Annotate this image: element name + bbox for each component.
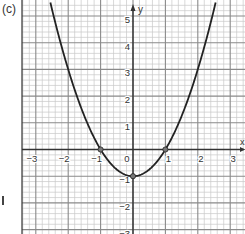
- x-tick-label: 2: [198, 153, 203, 164]
- y-tick-label: −2: [119, 201, 130, 212]
- y-tick-label: 5: [125, 14, 130, 25]
- marked-point: [98, 147, 103, 152]
- y-tick-label: 1: [125, 121, 130, 132]
- x-axis-label: x: [240, 137, 245, 147]
- x-tick-label: 3: [231, 153, 236, 164]
- parabola-chart: yx −3−2−1012354321−1−2−3: [0, 0, 245, 234]
- x-tick-label: −2: [59, 153, 70, 164]
- y-tick-label: 4: [125, 41, 130, 52]
- y-tick-label: 3: [125, 67, 130, 78]
- y-tick-label: −3: [119, 228, 130, 234]
- marked-point: [163, 147, 168, 152]
- y-axis-label: y: [138, 4, 143, 15]
- marked-point: [130, 174, 135, 179]
- x-axis-arrow-icon: [240, 147, 245, 152]
- x-tick-label: 0: [124, 153, 129, 164]
- x-tick-label: 1: [166, 153, 171, 164]
- x-tick-label: −3: [26, 153, 37, 164]
- y-tick-label: 2: [125, 94, 130, 105]
- x-tick-label: −1: [91, 153, 102, 164]
